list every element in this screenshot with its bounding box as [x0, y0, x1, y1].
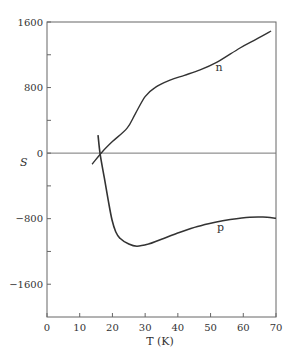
curve-p-label: p — [217, 221, 224, 234]
x-axis-ticks: 010203040506070 — [44, 313, 283, 333]
x-tick-label: 50 — [204, 322, 217, 333]
plot-frame — [47, 22, 276, 317]
y-tick-label: 1600 — [18, 17, 43, 28]
x-tick-label: 20 — [106, 322, 119, 333]
y-tick-label: −1600 — [9, 279, 43, 290]
x-tick-label: 40 — [171, 322, 184, 333]
curve-n-label: n — [215, 61, 222, 74]
curve-p — [98, 135, 276, 246]
x-tick-label: 70 — [270, 322, 283, 333]
x-tick-label: 10 — [73, 322, 86, 333]
y-axis-ticks: 16008000−800−1600 — [9, 17, 51, 290]
thermopower-chart: 010203040506070 16008000−800−1600 S T (K… — [0, 0, 294, 355]
y-tick-label: 800 — [24, 82, 43, 93]
x-tick-label: 60 — [237, 322, 250, 333]
curve-n — [92, 31, 271, 164]
x-axis-label: T (K) — [146, 335, 174, 348]
y-tick-label: −800 — [16, 213, 43, 224]
x-tick-label: 0 — [44, 322, 50, 333]
y-tick-label: 0 — [37, 148, 43, 159]
x-tick-label: 30 — [139, 322, 152, 333]
y-axis-label: S — [20, 156, 28, 169]
